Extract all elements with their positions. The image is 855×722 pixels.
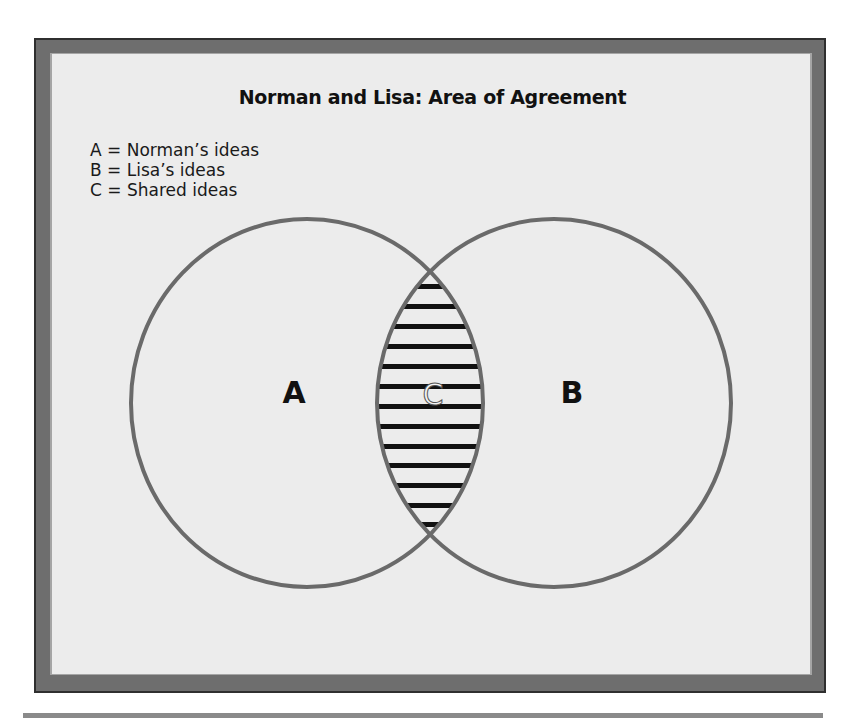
label-b: B	[561, 375, 584, 410]
horizontal-rule	[23, 713, 823, 718]
label-c: C	[423, 377, 444, 412]
label-a: A	[282, 375, 306, 410]
venn-diagram: A B C	[0, 0, 855, 722]
